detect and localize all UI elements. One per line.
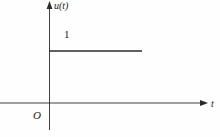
t-axis-arrowhead: [200, 100, 208, 106]
unit-step-function-figure: u(t) t O 1: [0, 0, 220, 137]
t-axis-label: t: [211, 99, 214, 109]
origin-label: O: [33, 110, 41, 121]
u-axis-label: u(t): [54, 1, 68, 11]
u-axis-arrowhead: [47, 1, 53, 9]
step-amplitude-label: 1: [64, 29, 70, 40]
